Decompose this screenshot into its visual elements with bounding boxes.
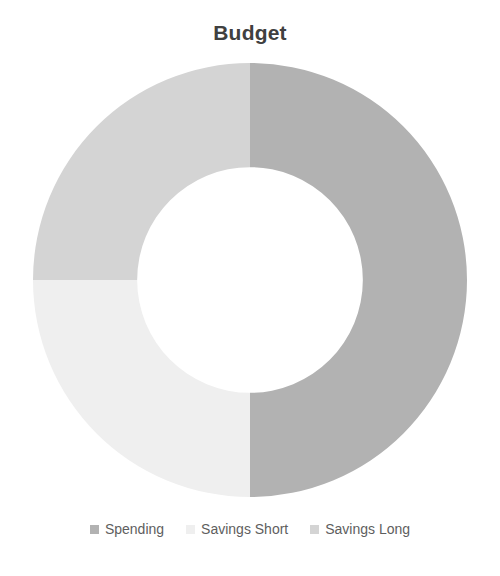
legend-item-label: Spending <box>105 522 164 536</box>
legend-item[interactable]: Savings Long <box>310 522 410 536</box>
chart-title: Budget <box>213 22 287 43</box>
legend-swatch-icon <box>90 525 99 534</box>
chart-legend: SpendingSavings ShortSavings Long <box>0 522 500 536</box>
legend-item-label: Savings Long <box>325 522 410 536</box>
pie-slice[interactable] <box>250 63 467 497</box>
plot-area <box>33 62 467 498</box>
legend-item[interactable]: Spending <box>90 522 164 536</box>
legend-swatch-icon <box>186 525 195 534</box>
doughnut-chart: Budget SpendingSavings ShortSavings Long <box>0 0 500 576</box>
legend-swatch-icon <box>310 525 319 534</box>
doughnut-svg <box>33 62 467 498</box>
pie-slice[interactable] <box>33 63 250 280</box>
legend-item-label: Savings Short <box>201 522 288 536</box>
legend-item[interactable]: Savings Short <box>186 522 288 536</box>
slice-group <box>33 63 467 497</box>
pie-slice[interactable] <box>33 280 250 497</box>
